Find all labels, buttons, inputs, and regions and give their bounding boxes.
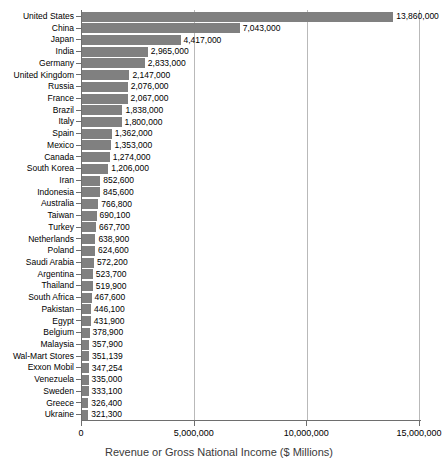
bar [81, 234, 95, 244]
bar [81, 199, 98, 209]
y-tick [76, 168, 81, 169]
y-tick [76, 227, 81, 228]
y-axis-line [81, 10, 82, 421]
bar-value-label: 852,600 [103, 174, 134, 186]
bar [81, 363, 89, 373]
y-tick [76, 16, 81, 17]
bar [81, 375, 89, 385]
bar [81, 316, 91, 326]
bar-rows: 13,860,0007,043,0004,417,0002,965,0002,8… [81, 10, 420, 420]
y-tick [76, 86, 81, 87]
bar [81, 47, 148, 57]
bar-value-label: 13,860,000 [396, 10, 439, 22]
y-tick [76, 133, 81, 134]
bar [81, 304, 91, 314]
bar-value-label: 378,900 [93, 326, 124, 338]
y-tick [76, 356, 81, 357]
bar [81, 386, 89, 396]
bar [81, 258, 94, 268]
y-tick [76, 297, 81, 298]
bar-value-label: 2,076,000 [131, 80, 169, 92]
y-tick [76, 51, 81, 52]
bar [81, 176, 100, 186]
bar [81, 246, 95, 256]
category-label: Ukraine [0, 408, 74, 421]
bar [81, 328, 90, 338]
bar [81, 211, 97, 221]
bar-value-label: 7,043,000 [243, 22, 281, 34]
y-tick [76, 156, 81, 157]
bar [81, 117, 122, 127]
bar-value-label: 335,000 [92, 373, 123, 385]
y-tick [76, 215, 81, 216]
y-tick [76, 320, 81, 321]
bar [81, 293, 92, 303]
bar [81, 82, 128, 92]
y-tick [76, 262, 81, 263]
y-tick [76, 74, 81, 75]
y-tick [76, 192, 81, 193]
y-tick [76, 145, 81, 146]
bar-value-label: 1,274,000 [113, 151, 151, 163]
bar-value-label: 321,300 [91, 408, 122, 420]
bar [81, 105, 122, 115]
x-tick-label: 10,000,000 [261, 428, 351, 439]
bar [81, 12, 393, 22]
bar-value-label: 2,147,000 [132, 69, 170, 81]
bar [81, 140, 111, 150]
y-tick [76, 98, 81, 99]
bar-value-label: 446,100 [94, 303, 125, 315]
y-tick [76, 309, 81, 310]
bar [81, 70, 129, 80]
bar-value-label: 1,206,000 [111, 162, 149, 174]
bar-value-label: 357,900 [92, 338, 123, 350]
bar-value-label: 333,100 [92, 385, 123, 397]
y-tick [76, 274, 81, 275]
bar-value-label: 351,139 [92, 350, 123, 362]
bar-value-label: 431,900 [94, 315, 125, 327]
bar-value-label: 523,700 [96, 268, 127, 280]
bar [81, 351, 89, 361]
y-tick [76, 367, 81, 368]
y-tick [76, 391, 81, 392]
bar [81, 129, 112, 139]
x-tick [194, 421, 195, 426]
bar-value-label: 638,900 [98, 233, 129, 245]
y-tick [76, 285, 81, 286]
bar-value-label: 467,600 [95, 291, 126, 303]
x-tick-label: 5,000,000 [149, 428, 239, 439]
y-tick [76, 344, 81, 345]
y-tick [76, 250, 81, 251]
bar-value-label: 2,067,000 [131, 92, 169, 104]
y-tick [76, 203, 81, 204]
bar-value-label: 1,800,000 [125, 116, 163, 128]
bar-value-label: 4,417,000 [184, 34, 222, 46]
bar-value-label: 326,400 [91, 397, 122, 409]
y-tick [76, 379, 81, 380]
bar-value-label: 572,200 [97, 256, 128, 268]
bar-value-label: 519,900 [96, 280, 127, 292]
x-tick [306, 421, 307, 426]
bar [81, 164, 108, 174]
y-tick [76, 180, 81, 181]
plot-area: 13,860,0007,043,0004,417,0002,965,0002,8… [81, 10, 420, 420]
y-tick [76, 402, 81, 403]
x-tick [419, 421, 420, 426]
y-tick [76, 238, 81, 239]
bar [81, 398, 88, 408]
bar-value-label: 2,965,000 [151, 45, 189, 57]
bar-value-label: 1,353,000 [114, 139, 152, 151]
x-tick-label: 15,000,000 [374, 428, 446, 439]
x-axis-line [81, 420, 421, 421]
bar-value-label: 2,833,000 [148, 57, 186, 69]
bar [81, 269, 93, 279]
y-tick [76, 414, 81, 415]
bar [81, 410, 88, 420]
x-axis-title: Revenue or Gross National Income ($ Mill… [0, 446, 438, 458]
y-tick [76, 63, 81, 64]
bar-value-label: 766,800 [101, 198, 132, 210]
bar-value-label: 667,700 [99, 221, 130, 233]
y-tick [76, 110, 81, 111]
y-tick [76, 39, 81, 40]
